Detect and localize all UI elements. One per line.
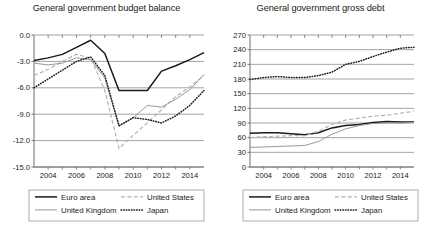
legend-budget-balance: Euro areaUnited StatesUnited KingdomJapa… <box>0 0 213 229</box>
legend-label: Japan <box>147 206 168 215</box>
panel-gross-debt: General government gross debt 2702402101… <box>214 0 427 229</box>
legend-label: Japan <box>361 206 382 215</box>
figure-root: General government budget balance 0.0-3.… <box>0 0 427 229</box>
legend-label: Euro area <box>275 193 310 202</box>
legend-label: United States <box>147 193 194 202</box>
legend-label: United Kingdom <box>61 206 116 215</box>
legend-label: United Kingdom <box>275 206 330 215</box>
legend-label: Euro area <box>61 193 96 202</box>
legend-label: United States <box>361 193 408 202</box>
panel-budget-balance: General government budget balance 0.0-3.… <box>0 0 213 229</box>
legend-gross-debt: Euro areaUnited StatesUnited KingdomJapa… <box>214 0 427 229</box>
